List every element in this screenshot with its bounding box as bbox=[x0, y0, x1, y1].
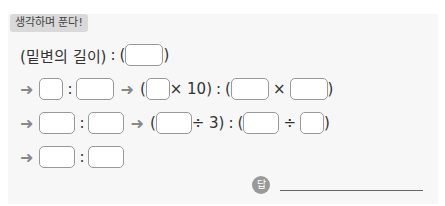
base-length-label: (밑변의 길이) bbox=[20, 45, 106, 66]
answer-box[interactable] bbox=[39, 78, 63, 100]
answer-box[interactable] bbox=[88, 112, 124, 134]
arrow-icon: ➜ bbox=[20, 148, 33, 167]
answer-badge: 답 bbox=[252, 176, 270, 194]
answer-line[interactable] bbox=[280, 190, 423, 191]
answer-box[interactable] bbox=[39, 112, 75, 134]
answer-box[interactable] bbox=[39, 146, 75, 168]
arrow-icon: ➜ bbox=[20, 114, 33, 133]
row-2: ➜ : ➜ ( × 10) : ( × ) bbox=[20, 76, 333, 102]
arrow-icon: ➜ bbox=[120, 80, 133, 99]
answer-box[interactable] bbox=[125, 44, 163, 66]
answer-box[interactable] bbox=[88, 146, 124, 168]
arrow-icon: ➜ bbox=[130, 114, 143, 133]
arrow-icon: ➜ bbox=[20, 80, 33, 99]
row-1: (밑변의 길이) : ( ) bbox=[20, 42, 169, 68]
answer-box[interactable] bbox=[300, 112, 324, 134]
answer-box[interactable] bbox=[243, 112, 279, 134]
section-tag: 생각하며 푼다! bbox=[10, 14, 88, 32]
answer-box[interactable] bbox=[290, 78, 328, 100]
answer-box[interactable] bbox=[156, 112, 192, 134]
answer-box[interactable] bbox=[231, 78, 269, 100]
answer-box[interactable] bbox=[76, 78, 114, 100]
answer-box[interactable] bbox=[146, 78, 170, 100]
row-3: ➜ : ➜ ( ÷ 3) : ( ÷ ) bbox=[20, 110, 330, 136]
row-4: ➜ : bbox=[20, 144, 124, 170]
